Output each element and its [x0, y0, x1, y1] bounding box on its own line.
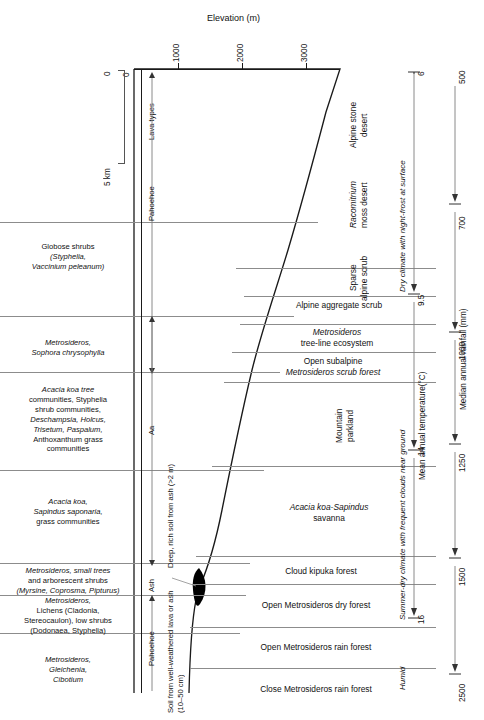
- lava-segment-pahoehoe-upper: Pahoehoe: [147, 165, 157, 221]
- eco-line: Alpine stone: [348, 102, 358, 148]
- eco-line: alpine scrub: [359, 255, 369, 300]
- veg-line: Metrosideros,: [45, 655, 91, 664]
- veg-line: Metrosideros, small trees: [26, 566, 111, 575]
- eco-line: Acacia koa-Sapindus: [290, 502, 369, 512]
- lava-column-rule: [141, 69, 142, 693]
- veg-line: Trisetum, Paspalum,: [33, 425, 102, 434]
- lava-segment-aa: Aa: [147, 415, 157, 435]
- veg-line: (Dodonaea, Styphelia): [30, 626, 106, 635]
- vegetation-zone-5: Metrosideros, Lichens (Cladonia, Stereoc…: [2, 596, 134, 636]
- veg-line: Sapindus saponaria,: [33, 507, 102, 516]
- eco-line: Close Metrosideros rain forest: [260, 684, 372, 694]
- zone-divider-4: [0, 470, 264, 471]
- veg-line: Anthoxanthum grass: [33, 435, 103, 444]
- vegetation-zone-6: Metrosideros, Gleichenia, Cibotium: [6, 655, 130, 685]
- eco-line: desert: [359, 113, 369, 136]
- veg-line: (Myrsine, Coprosma, Pipturus): [17, 586, 120, 595]
- veg-line: Gleichenia,: [49, 665, 87, 674]
- veg-line: Sophora chrysophylla: [31, 348, 104, 357]
- eco-line: savanna: [313, 513, 345, 523]
- lava-segment-pahoehoe-lower: Pahoehoe: [147, 610, 157, 666]
- soil-segment-deep-rich: Deep, rich soil from ash (>2 m): [166, 398, 176, 568]
- eco-line: Alpine aggregate scrub: [296, 300, 382, 310]
- veg-line: (Styphelia,: [50, 252, 86, 261]
- veg-line: grass communities: [36, 517, 99, 526]
- upper-ecosystem-0: Alpine stone desert: [348, 80, 372, 170]
- upper-ecosystem-1: Racomitrium moss desert: [348, 160, 372, 250]
- eco-divider-i: [190, 627, 436, 628]
- eco-line: Metrosideros scrub forest: [286, 367, 381, 377]
- veg-line: Acacia koa,: [48, 497, 87, 506]
- veg-line: communities: [47, 444, 90, 453]
- vegetation-zone-0: Globose shrubs (Styphelia, Vaccinium pel…: [6, 242, 130, 272]
- veg-line: Metrosideros,: [45, 338, 91, 347]
- eco-line: Racomitrium: [348, 182, 358, 229]
- vegetation-zone-1: Metrosideros, Sophora chrysophylla: [6, 338, 130, 358]
- eco-line: moss desert: [359, 182, 369, 228]
- eco-line: Open subalpine: [304, 356, 363, 366]
- soil-segment-weathered: Soil from well-weathered lava or ash (10…: [166, 583, 188, 713]
- veg-line: Acacia koa tree: [42, 385, 94, 394]
- rainfall-axis-arrows: [447, 56, 477, 720]
- veg-line: communities, Styphelia: [29, 395, 107, 404]
- slope-outline-lower: [189, 600, 196, 693]
- eco-line: parkland: [345, 410, 355, 442]
- eco-line: Open Metrosideros rain forest: [261, 642, 372, 652]
- vegetation-zone-4: Metrosideros, small trees and arborescen…: [2, 566, 134, 596]
- eco-line: Sparse: [348, 265, 358, 292]
- veg-line: Stereocaulon), low shrubs: [24, 616, 112, 625]
- eco-line: Mountain: [334, 409, 344, 443]
- veg-line: Metrosideros,: [45, 596, 91, 605]
- eco-line: tree-line ecosystem: [301, 338, 374, 348]
- vegetation-zone-2: Acacia koa tree communities, Styphelia s…: [4, 385, 132, 454]
- ecosystem-alpine-aggregate-scrub: Alpine aggregate scrub: [246, 300, 432, 311]
- veg-line: and arborescent shrubs: [28, 576, 108, 585]
- temperature-axis-arrows: [406, 62, 436, 702]
- veg-line: shrub communities,: [35, 405, 101, 414]
- veg-line: Lichens (Cladonia,: [37, 606, 100, 615]
- ecosystem-mountain-parkland: Mountain parkland: [334, 398, 358, 454]
- eco-line: Open Metrosideros dry forest: [262, 600, 370, 610]
- zone-divider-5: [0, 563, 250, 564]
- veg-line: Deschampsia, Holcus,: [30, 415, 106, 424]
- veg-line: Cibotium: [53, 675, 83, 684]
- veg-line: Vaccinium peleanum): [32, 262, 105, 271]
- lava-segment-ash: Ash: [147, 568, 157, 592]
- eco-line: Cloud kipuka forest: [285, 566, 357, 576]
- vegetation-zone-3: Acacia koa, Sapindus saponaria, grass co…: [6, 497, 130, 527]
- eco-line: Metrosideros: [313, 327, 361, 337]
- veg-line: Globose shrubs: [41, 242, 94, 251]
